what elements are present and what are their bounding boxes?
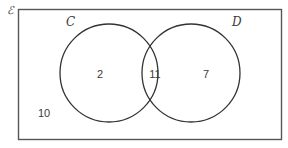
venn-diagram-graphic <box>0 0 288 148</box>
region-count-outside: 10 <box>38 108 50 119</box>
region-count-c-only: 2 <box>97 69 103 80</box>
venn-diagram-canvas: ℰ C D 2 11 7 10 <box>0 0 288 148</box>
set-label-d: D <box>232 16 242 28</box>
region-count-d-only: 7 <box>203 69 209 80</box>
set-label-c: C <box>66 16 75 28</box>
region-count-intersection: 11 <box>149 69 160 80</box>
